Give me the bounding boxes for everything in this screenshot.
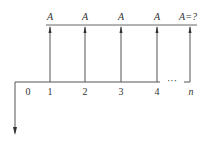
period-label-n: n [189,86,194,97]
inflow-label: A [81,11,89,22]
cash-flow-diagram: A A A A A=? 0 1 2 3 4 n ··· [0,0,206,141]
inflow-label: A [153,11,161,22]
period-label: 0 [26,86,31,97]
inflow-arrows [50,27,190,82]
inflow-label: A [117,11,125,22]
inflow-label: A [46,11,54,22]
period-label: 4 [155,86,160,97]
unknown-inflow-label: A=? [178,11,197,22]
period-label: 2 [83,86,88,97]
ellipsis: ··· [167,75,177,86]
period-label: 3 [119,86,124,97]
period-label: 1 [48,86,53,97]
